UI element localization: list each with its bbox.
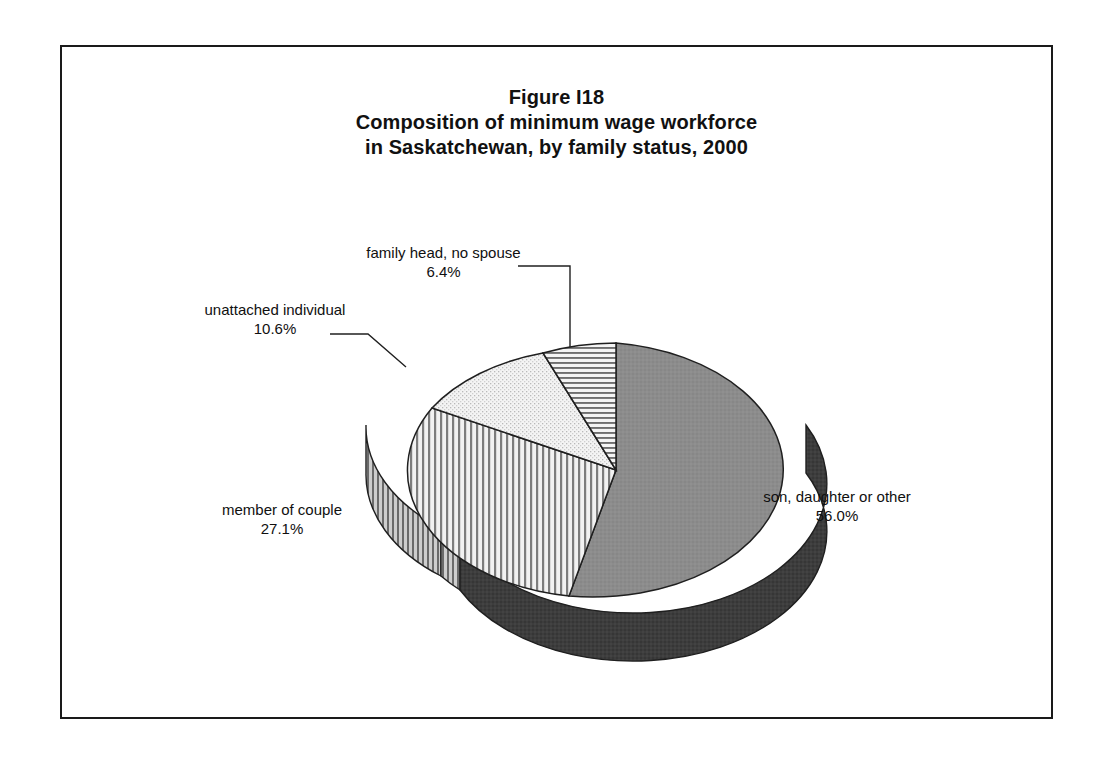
pie-label-unattached-percent: 10.6%: [170, 319, 380, 338]
pie-label-son-name: son, daughter or other: [763, 488, 911, 505]
pie-label-son-percent: 56.0%: [722, 506, 952, 525]
pie-label-son-daughter-or-other: son, daughter or other 56.0%: [722, 487, 952, 525]
pie-label-unattached-individual: unattached individual 10.6%: [170, 300, 380, 338]
leader-line-unattached: [330, 334, 406, 367]
pie-label-member-percent: 27.1%: [182, 519, 382, 538]
pie-label-family-head-percent: 6.4%: [336, 262, 551, 281]
pie-label-family-head-name: family head, no spouse: [366, 244, 520, 261]
figure-frame: Figure I18 Composition of minimum wage w…: [60, 45, 1053, 719]
pie-label-member-of-couple: member of couple 27.1%: [182, 500, 382, 538]
pie-chart-graphic: [62, 47, 1055, 721]
pie-label-member-name: member of couple: [222, 501, 342, 518]
pie-label-family-head-no-spouse: family head, no spouse 6.4%: [336, 243, 551, 281]
pie-label-unattached-name: unattached individual: [205, 301, 346, 318]
